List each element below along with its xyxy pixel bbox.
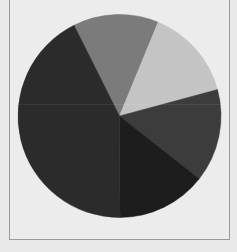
- scan-artifact-line: [9, 104, 230, 105]
- pie-chart: [0, 0, 237, 252]
- pie-slices: [18, 14, 221, 217]
